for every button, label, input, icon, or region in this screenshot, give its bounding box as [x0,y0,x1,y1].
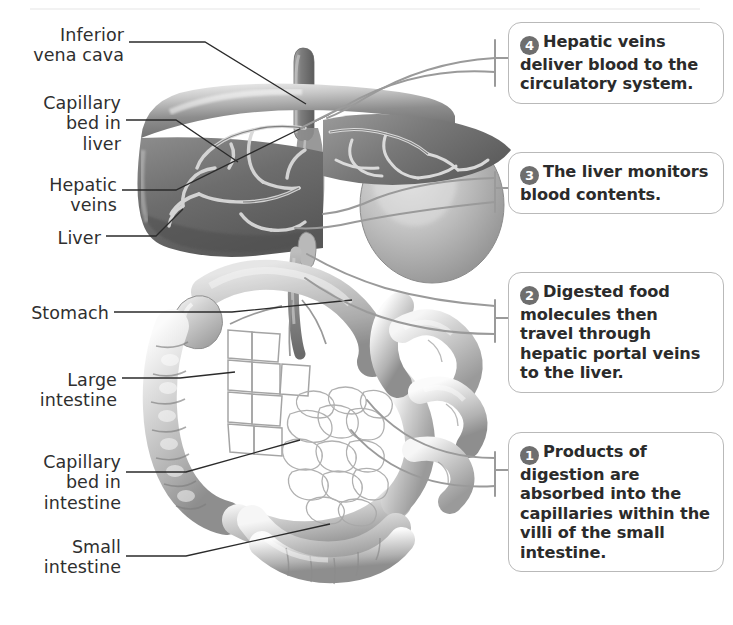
step-badge-3: 3 [520,166,539,185]
liver-organ-shape [137,84,511,257]
label-inferior-vena-cava: Inferior vena cava [33,25,124,66]
callout-leader-lines [295,40,508,496]
callout-text-3: The liver monitors blood contents. [520,162,708,204]
callout-text-4: Hepatic veins deliver blood to the circu… [520,32,698,93]
duodenum-shape [173,296,222,349]
callout-step-1[interactable]: 1Products of digestion are absorbed into… [508,432,724,572]
gallbladder-shape [298,232,316,268]
step-badge-2: 2 [520,286,539,305]
label-large-intestine: Large intestine [40,370,117,411]
callout-text-2: Digested food molecules then travel thro… [520,282,700,382]
callout-step-2[interactable]: 2Digested food molecules then travel thr… [508,272,724,393]
transverse-colon-shape [206,271,374,362]
label-small-intestine: Small intestine [44,537,121,578]
hepatic-portal-vein [293,252,301,354]
small-intestine-shape [252,322,476,584]
capillary-bed-intestine-shape [228,300,392,526]
label-liver: Liver [58,228,101,248]
inferior-vena-cava-vessel [294,48,324,228]
callout-text-1: Products of digestion are absorbed into … [520,442,710,562]
stomach-organ-shape [360,127,504,283]
label-leader-lines [106,42,352,556]
large-intestine-shape [151,306,420,537]
label-capillary-bed-in-liver: Capillary bed in liver [43,93,121,154]
callout-step-3[interactable]: 3The liver monitors blood contents. [508,152,724,214]
label-capillary-bed-in-intestine: Capillary bed in intestine [43,452,121,513]
label-hepatic-veins: Hepatic veins [49,175,117,216]
diagram-canvas: Inferior vena cava Capillary bed in live… [0,0,733,625]
label-stomach: Stomach [31,303,109,323]
step-badge-1: 1 [520,446,539,465]
callout-step-4[interactable]: 4Hepatic veins deliver blood to the circ… [508,22,724,104]
step-badge-4: 4 [520,36,539,55]
